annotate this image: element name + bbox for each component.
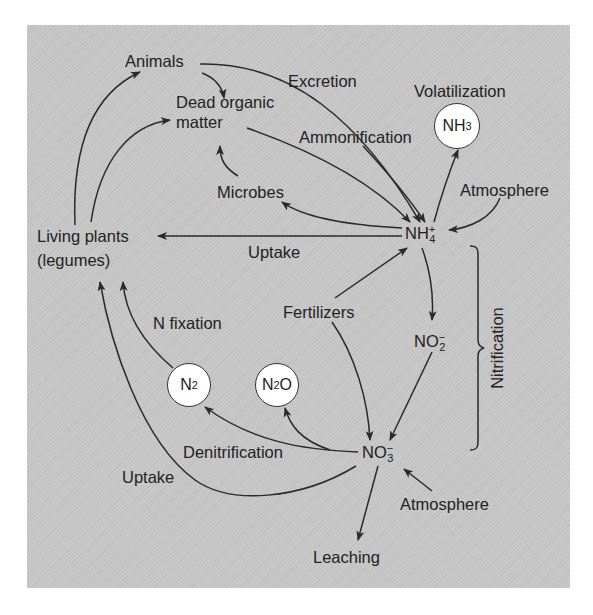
node-living-plants-line2: (legumes)	[37, 251, 110, 270]
label-nitrification: Nitrification	[488, 298, 508, 398]
arrow-leaching	[358, 466, 378, 540]
n2o-base: N	[262, 376, 274, 394]
node-n2: N2	[167, 363, 211, 407]
n2o-tail: O	[280, 376, 292, 394]
node-no3: NO−3	[362, 443, 393, 462]
no2-subscript: 2	[439, 341, 445, 353]
node-nh4: NH+4	[405, 224, 435, 243]
node-microbes: Microbes	[217, 183, 284, 202]
label-excretion: Excretion	[288, 72, 357, 91]
node-animals: Animals	[125, 52, 184, 71]
node-living-plants-line1: Living plants	[37, 227, 129, 246]
arrow-ammonification-2	[363, 146, 425, 222]
no3-base: NO	[362, 443, 387, 461]
node-fertilizers: Fertilizers	[283, 303, 355, 322]
arrow-atmosphere-to-no3	[404, 469, 432, 491]
arrow-plants-to-dead-matter	[91, 120, 170, 222]
node-nh3: NH3	[434, 103, 480, 149]
label-n-fixation: N fixation	[153, 314, 222, 333]
node-leaching: Leaching	[313, 548, 380, 567]
arrow-microbes-to-dead-matter	[220, 146, 238, 176]
node-dead-organic-matter-line1: Dead organic	[176, 93, 274, 112]
nh4-subscript: 4	[429, 233, 435, 245]
label-ammonification: Ammonification	[299, 128, 412, 147]
arrow-fertilizers-to-nh4	[335, 248, 407, 298]
nitrification-brace	[470, 246, 484, 450]
nh4-base: NH	[405, 224, 429, 242]
label-denitrification: Denitrification	[183, 443, 283, 462]
label-volatilization: Volatilization	[414, 82, 506, 101]
node-n2o: N2O	[255, 363, 299, 407]
arrow-denitrification-n2o	[285, 408, 330, 450]
arrow-atmosphere-to-nh4	[449, 198, 500, 230]
no3-subscript: 3	[387, 452, 393, 464]
arrow-no2-to-no3	[390, 352, 432, 440]
arrow-nh4-to-microbes	[282, 202, 402, 228]
arrow-volatilization	[434, 150, 458, 222]
node-atmosphere-lower: Atmosphere	[400, 495, 489, 514]
nh3-base: NH	[442, 117, 465, 135]
arrow-fertilizers-to-no3	[332, 322, 370, 440]
node-no2: NO−2	[414, 332, 445, 351]
label-uptake-upper: Uptake	[248, 243, 300, 262]
label-uptake-lower: Uptake	[122, 468, 174, 487]
n2-base: N	[180, 376, 192, 394]
arrow-nh4-to-no2	[422, 248, 433, 320]
arrow-plants-to-animals	[75, 72, 140, 225]
no2-base: NO	[414, 332, 439, 350]
node-dead-organic-matter-line2: matter	[176, 113, 223, 132]
node-atmosphere-upper: Atmosphere	[460, 181, 549, 200]
